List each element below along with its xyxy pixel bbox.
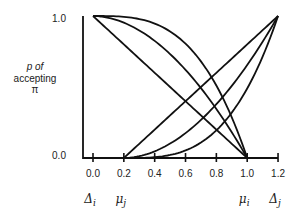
- chart: p of accepting π 1.0 0.0 0.00.20.40.60.8…: [0, 0, 303, 216]
- x-tick-label: 0.8: [209, 168, 223, 179]
- curves: [93, 16, 278, 158]
- symbol-label: μj: [116, 192, 127, 208]
- x-tick-label: 0.4: [148, 168, 162, 179]
- y-tick-label-0.0: 0.0: [52, 150, 66, 161]
- y-axis-label-line-2: accepting: [14, 73, 57, 84]
- x-tick-labels: 0.00.20.40.60.81.01.2: [86, 168, 285, 179]
- symbol-label: Δj: [268, 192, 281, 208]
- y-tick-label-1.0: 1.0: [52, 13, 66, 24]
- symbol-label: μi: [239, 192, 250, 208]
- x-symbol-annotations: ΔiμjμiΔj: [83, 192, 281, 208]
- x-tick-label: 0.6: [179, 168, 193, 179]
- curve-i-linear: [93, 16, 247, 158]
- y-axis-label-line-3: π: [32, 84, 39, 95]
- symbol-label: Δi: [83, 192, 96, 208]
- x-tick-label: 1.2: [271, 168, 285, 179]
- x-tick-label: 0.0: [86, 168, 100, 179]
- y-axis-label-line-1: p of: [26, 61, 45, 72]
- x-tick-label: 1.0: [240, 168, 254, 179]
- x-tick-label: 0.2: [117, 168, 131, 179]
- y-axis-label: p of accepting π: [14, 61, 57, 95]
- curve-j-linear: [124, 16, 278, 158]
